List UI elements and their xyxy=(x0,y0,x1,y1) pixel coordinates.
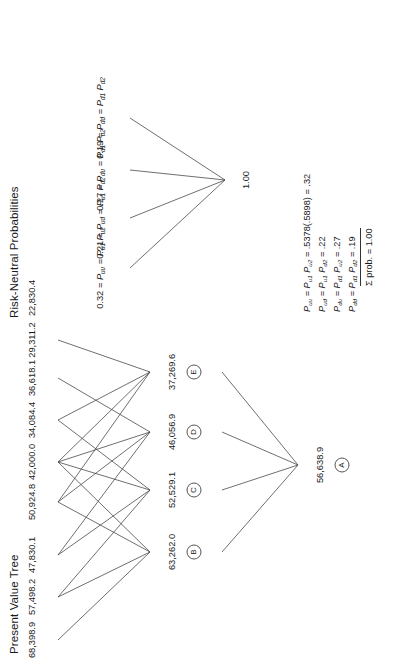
formula-sum-row: Σ prob. = 1.00 xyxy=(360,228,377,286)
node-badge-b: B xyxy=(187,545,202,560)
formula-calc-ud: = .22 xyxy=(317,236,327,259)
leaf-value: 68,398.9 xyxy=(27,622,37,658)
formula-row-uu: Puu = Pu1 Pu2 = .5378(.5898) = .32 xyxy=(300,174,315,312)
node-badge-a: A xyxy=(335,458,350,473)
branch-label-dd: 0.19 = Pdd = Pd1 Pd2 xyxy=(95,77,105,159)
formula-calc-du: = .27 xyxy=(332,236,342,259)
formula-calc-dd: = .19 xyxy=(347,236,357,259)
present-value-tree-edges xyxy=(0,330,410,670)
formula-calc-uu: = .5378(.5898) = .32 xyxy=(302,174,312,260)
leaf-value: 47,830.1 xyxy=(27,537,37,573)
node-value-b: 63,262.0 xyxy=(167,534,177,570)
leaf-value: 36,618.1 xyxy=(27,360,37,396)
leaf-value: 42,000.0 xyxy=(27,444,37,480)
leaf-value: 57,498.2 xyxy=(27,579,37,615)
node-badge-e: E xyxy=(187,365,202,380)
formula-block: Puu = Pu1 Pu2 = .5378(.5898) = .32 Pud =… xyxy=(300,174,377,312)
risk-neutral-root-value: 1.00 xyxy=(241,171,251,189)
risk-neutral-probabilities-panel: Risk-Neutral Probabilities 0.32 = Puu = … xyxy=(0,0,410,330)
formula-row-du: Pdu = Pd1 Pu2 = .27 xyxy=(330,174,345,312)
formula-row-dd: Pdd = Pd1 Pd2 = .19 xyxy=(345,174,360,312)
node-value-a: 56,638.9 xyxy=(315,447,325,483)
node-value-d: 46,056.9 xyxy=(167,414,177,450)
node-value-c: 52,529.1 xyxy=(167,472,177,508)
formula-row-ud: Pud = Pu1 Pd2 = .22 xyxy=(315,174,330,312)
figure-canvas: Present Value Tree xyxy=(0,0,410,670)
node-badge-d: D xyxy=(187,425,202,440)
present-value-tree-panel: Present Value Tree xyxy=(0,330,410,670)
node-value-e: 37,269.6 xyxy=(167,354,177,390)
leaf-value: 34,084.4 xyxy=(27,402,37,438)
node-badge-c: C xyxy=(187,483,202,498)
leaf-value: 50,924.8 xyxy=(27,484,37,520)
